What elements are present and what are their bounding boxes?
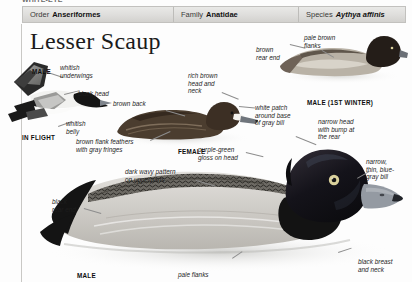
annotation-brown-back: brown back xyxy=(113,100,146,108)
taxonomy-species-cell: Species Aythya affinis xyxy=(298,7,405,22)
annotation-rich-brown-head: rich brown head and neck xyxy=(188,72,217,95)
annotation-narrow-head-bump: narrow head with bump at the rear xyxy=(318,118,354,141)
caption-female: FEMALE xyxy=(178,148,205,155)
annotation-brown-rear-end: brown rear end xyxy=(256,46,280,61)
annotation-brown-flank-feathers: brown flank feathers with gray fringes xyxy=(76,138,134,153)
annotation-black-rear-end: black rear end xyxy=(52,198,76,213)
caption-male: MALE xyxy=(77,272,96,279)
annotation-white-patch: white patch around base of gray bill xyxy=(255,104,291,127)
annotation-pale-flanks: pale flanks xyxy=(178,271,209,279)
taxonomy-family-value: Anatidae xyxy=(206,10,238,19)
taxonomy-family-cell: Family Anatidae xyxy=(173,7,298,22)
field-guide-page: WHITE-EYE Order Anseriformes Family Anat… xyxy=(0,0,412,282)
taxonomy-species-value: Aythya affinis xyxy=(336,10,385,19)
running-head: WHITE-EYE xyxy=(22,0,63,3)
caption-in-flight: IN FLIGHT xyxy=(22,134,55,141)
annotation-whitish-belly: whitish belly xyxy=(66,120,86,135)
caption-male-in-flight: MALE xyxy=(32,68,51,75)
illustration-male xyxy=(34,140,406,282)
illustration-male-first-winter xyxy=(276,28,408,88)
annotation-black-breast-neck: black breast and neck xyxy=(358,258,392,273)
page-title: Lesser Scaup xyxy=(30,28,161,55)
annotation-narrow-bill: narrow, thin, blue- gray bill xyxy=(366,158,394,181)
taxonomy-family-label: Family xyxy=(181,10,203,19)
taxonomy-bar: Order Anseriformes Family Anatidae Speci… xyxy=(22,6,406,23)
taxonomy-species-label: Species xyxy=(306,10,333,19)
annotation-pale-brown-flanks: pale brown flanks xyxy=(304,34,335,49)
taxonomy-order-label: Order xyxy=(30,10,49,19)
annotation-dark-wavy-pattern: dark wavy pattern on upperparts xyxy=(125,168,175,183)
taxonomy-order-cell: Order Anseriformes xyxy=(23,7,173,22)
taxonomy-order-value: Anseriformes xyxy=(52,10,100,19)
annotation-black-head: black head xyxy=(78,90,109,98)
annotation-whitish-underwings: whitish underwings xyxy=(60,64,93,79)
caption-male-first-winter: MALE (1ST WINTER) xyxy=(307,99,373,106)
